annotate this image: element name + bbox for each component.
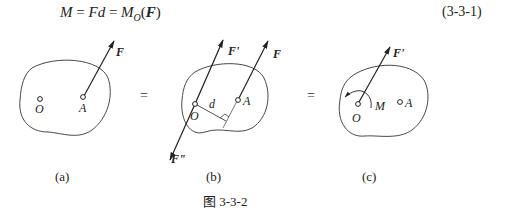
label-f: F bbox=[115, 45, 124, 59]
force-f-arrow bbox=[239, 41, 268, 98]
figure-a: O A F (a) bbox=[20, 41, 124, 184]
equals-sign-2: = bbox=[307, 88, 315, 103]
force-f-prime-arrow bbox=[359, 47, 390, 102]
label-a: A bbox=[242, 94, 251, 108]
diagram-canvas: O A F (a) = O A d F' F F" (b) = O M A F'… bbox=[0, 0, 507, 215]
force-f-prime-arrow bbox=[195, 40, 223, 104]
force-f-arrow bbox=[85, 41, 115, 95]
point-o-marker bbox=[193, 102, 198, 107]
figure-b: O A d F' F F" (b) bbox=[170, 40, 281, 184]
point-a-marker bbox=[236, 98, 241, 103]
point-a-marker bbox=[81, 95, 86, 100]
label-a: A bbox=[404, 96, 413, 110]
label-a: A bbox=[78, 101, 87, 115]
sublabel-b: (b) bbox=[206, 169, 221, 184]
label-f-double-prime: F" bbox=[170, 152, 186, 166]
figure-caption: 图 3-3-2 bbox=[203, 194, 247, 209]
sublabel-c: (c) bbox=[362, 169, 376, 184]
point-o-marker bbox=[356, 102, 361, 107]
sublabel-a: (a) bbox=[55, 169, 69, 184]
label-m: M bbox=[374, 99, 386, 113]
right-angle-mark bbox=[220, 114, 229, 118]
figure-c: O M A F' (c) bbox=[339, 46, 428, 184]
label-f-prime: F' bbox=[392, 46, 405, 60]
label-o: O bbox=[352, 111, 361, 125]
label-f-prime: F' bbox=[227, 44, 240, 58]
label-d: d bbox=[209, 97, 216, 111]
label-o: O bbox=[190, 109, 199, 123]
label-o: O bbox=[35, 102, 44, 116]
equals-sign-1: = bbox=[140, 88, 148, 103]
point-a-marker bbox=[398, 100, 403, 105]
point-o-marker bbox=[38, 97, 43, 102]
label-f: F bbox=[272, 47, 281, 61]
